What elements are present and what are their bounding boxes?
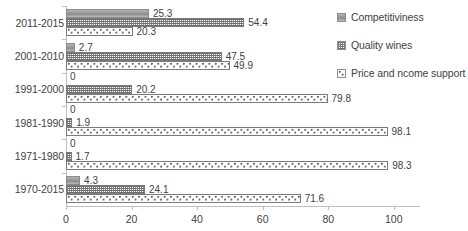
- category-label: 1970-2015: [2, 183, 64, 195]
- bar-1-1970-2015: [66, 176, 80, 185]
- bar-3-1991-2000: [66, 94, 328, 103]
- chart-legend: CompetitivinessQuality winesPrice and nc…: [337, 11, 468, 95]
- bar-1-2001-2010: [66, 43, 75, 52]
- legend-item-1[interactable]: Competitiviness: [337, 11, 468, 23]
- legend-label: Competitiviness: [351, 11, 424, 23]
- data-label: 49.9: [234, 60, 253, 71]
- category-axis-line: [66, 206, 420, 207]
- bar-2-1991-2000: [66, 85, 132, 94]
- y-axis-tick: [62, 6, 66, 7]
- bar-1-1971-1980: [66, 143, 67, 152]
- x-axis-tick-label: 20: [126, 213, 138, 225]
- bar-1-1991-2000: [66, 76, 67, 85]
- data-label: 54.4: [248, 17, 267, 28]
- x-axis-tick-label: 60: [257, 213, 269, 225]
- y-axis-tick: [62, 139, 66, 140]
- data-label: 71.6: [305, 193, 324, 204]
- category-axis: 2011-20152001-20101991-20001981-19901971…: [0, 0, 64, 206]
- legend-label: Quality wines: [351, 39, 412, 51]
- category-label: 1981-1990: [2, 117, 64, 129]
- legend-item-2[interactable]: Quality wines: [337, 39, 468, 51]
- y-axis-tick: [62, 73, 66, 74]
- category-label: 1971-1980: [2, 150, 64, 162]
- data-label: 0: [70, 104, 76, 115]
- data-label: 20.3: [137, 26, 156, 37]
- bar-3-2001-2010: [66, 61, 230, 70]
- x-axis-tick-label: 0: [63, 213, 69, 225]
- legend-swatch-icon: [337, 41, 346, 50]
- bar-3-1971-1980: [66, 161, 388, 170]
- x-axis-tick: [394, 206, 395, 210]
- legend-swatch-icon: [337, 69, 346, 78]
- x-axis-tick: [328, 206, 329, 210]
- x-axis-tick-label: 100: [385, 213, 403, 225]
- legend-item-3[interactable]: Price and ncome support: [337, 67, 468, 79]
- data-label: 98.3: [392, 160, 411, 171]
- bar-3-1981-1990: [66, 127, 388, 136]
- x-axis-tick-label: 40: [191, 213, 203, 225]
- legend-label: Price and ncome support: [351, 67, 465, 79]
- bar-2-1981-1990: [66, 118, 72, 127]
- data-label: 0: [70, 138, 76, 149]
- bar-3-1970-2015: [66, 194, 301, 203]
- x-axis-tick-label: 80: [322, 213, 334, 225]
- bar-2-2001-2010: [66, 52, 222, 61]
- bar-1-1981-1990: [66, 109, 67, 118]
- x-axis-tick: [197, 206, 198, 210]
- bar-2-1971-1980: [66, 152, 72, 161]
- bar-chart: 2011-20152001-20101991-20001981-19901971…: [0, 0, 468, 231]
- category-label: 2001-2010: [2, 50, 64, 62]
- bar-1-2011-2015: [66, 9, 149, 18]
- legend-swatch-icon: [337, 13, 346, 22]
- bar-2-1970-2015: [66, 185, 145, 194]
- category-label: 2011-2015: [2, 17, 64, 29]
- y-axis-tick: [62, 39, 66, 40]
- category-label: 1991-2000: [2, 83, 64, 95]
- y-axis-tick: [62, 173, 66, 174]
- x-axis-tick: [66, 206, 67, 210]
- data-label: 98.1: [392, 126, 411, 137]
- x-axis-tick: [132, 206, 133, 210]
- data-label: 0: [70, 71, 76, 82]
- y-axis-tick: [62, 106, 66, 107]
- bar-3-2011-2015: [66, 27, 133, 36]
- x-axis-tick: [263, 206, 264, 210]
